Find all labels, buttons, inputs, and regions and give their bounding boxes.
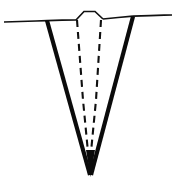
figure-container xyxy=(0,0,176,182)
ground-surface-inner-left-line xyxy=(47,20,76,21)
trench-cross-section-diagram xyxy=(0,0,176,182)
